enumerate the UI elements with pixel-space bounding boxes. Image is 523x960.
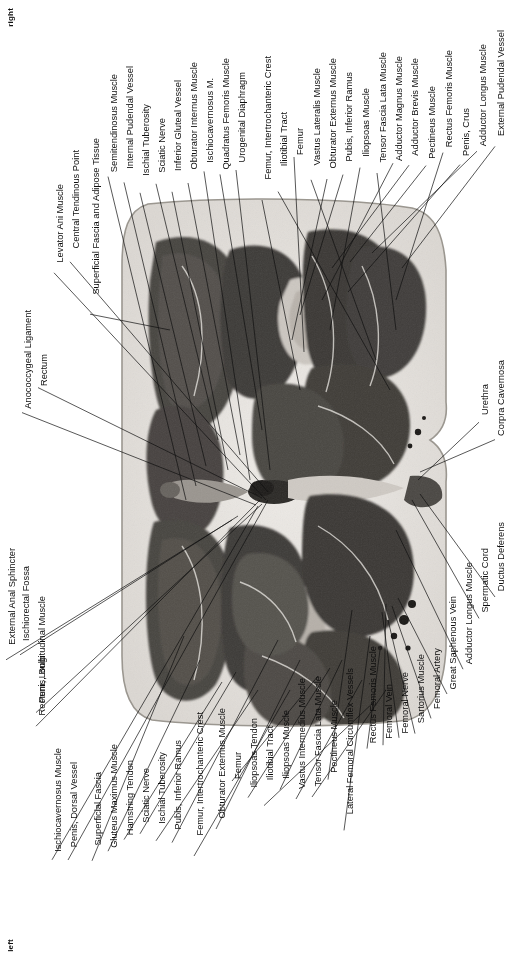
anatomy-label: Internal Pudendal Vessel [126,66,136,169]
label-layer: External Pudendal VesselAdductor Longus … [0,0,523,960]
anatomy-label: Rectum [40,354,50,386]
anatomy-label: Lateral Femoral Circumflex Vessels [346,668,356,814]
anatomy-label: Sartorius Muscle [417,654,427,723]
anatomy-label: Ductus Deferens [497,522,507,591]
anatomy-label: Adductor Longus Muscle [465,562,475,664]
anatomy-label: Corpra Cavernosa [497,360,507,436]
anatomy-label: External Anal Sphincter [8,548,18,645]
anatomy-label: Femur [296,128,306,155]
anatomy-label: Spermatic Cord [481,548,491,613]
anatomy-label: Urethra [481,384,491,415]
anatomy-label: Ischial Tuberosity [142,104,152,176]
anatomy-label: Pectineus Muscle [428,86,438,159]
anatomy-label: Rectum, Longitudinal Muscle [38,596,48,715]
anatomy-label: Tensor Fascia Lata Muscle [379,52,389,163]
anatomy-label: Penis, Crus [462,108,472,156]
anatomy-label: Iliotibial Tract [280,112,290,166]
anatomy-label: Adductor Brevis Muscle [411,58,421,156]
anatomy-label: Great Saphenous Vein [449,596,459,690]
anatomy-label: Adductor Longus Muscle [479,44,489,146]
anatomy-label: Semitendinosus Muscle [110,74,120,172]
anatomy-label: Iliopsoas Muscle [282,710,292,779]
anatomy-label: Femur, Intertrochanteric Crest [196,712,206,835]
anatomy-label: Vastus Lateralis Muscle [313,68,323,166]
anatomy-label: Ischiocavernosus M. [206,78,216,163]
anatomy-label: Penis, Dorsal Vessel [70,762,80,847]
anatomy-label: Central Tendinous Point [72,150,82,249]
anatomy-label: Superficial Fascia and Adipose Tissue [92,138,102,295]
anatomy-label: Obturator Internus Muscle [190,62,200,169]
anatomy-label: Rectus Femoris Muscle [369,646,379,743]
anatomy-label: External Pudendal Vessel [497,30,507,136]
anatomy-label: Femoral Vein [385,684,395,739]
anatomy-label: Rectus Femoris Muscle [445,50,455,147]
anatomy-label: Levator Ani Muscle [56,184,66,263]
anatomy-label: Iliopsoas Muscle [362,88,372,157]
anatomy-label: Pubis, Inferior Ramus [345,72,355,161]
anatomy-label: Femur [234,752,244,779]
anatomy-label: Obturator Externus Muscle [329,58,339,169]
anatomy-label: Urogenital Diaphragm [238,72,248,162]
anatomy-label: Anococcygeal Ligament [24,310,34,409]
anatomy-label: Sciatic Nerve [158,118,168,173]
anatomy-label: Pectineus Muscle [330,700,340,773]
anatomy-label: Gluteus Maximus Muscle [110,744,120,848]
anatomy-label: Pubis, Inferior Ramus [174,740,184,829]
anatomy-label: Iliopsoas Tendon [250,718,260,788]
anatomy-label: Femoral Nerve [401,672,411,733]
anatomy-label: Vastus Intermedius Muscle [298,678,308,789]
anatomy-label: Obturator Externus Muscle [218,708,228,819]
anatomy-label: Superficial Fascia [94,772,104,845]
anatomy-label: Femoral Artery [433,648,443,709]
anatomy-label: Femur, Intertrochanteric Crest [264,56,274,179]
anatomy-label: Ischial Tuberosity [158,752,168,824]
anatomy-label: Inferior Gluteal Vessel [174,80,184,171]
anatomy-label: Ischiorectal Fossa [22,566,32,641]
anatomy-label: Ischiocavernosus Muscle [54,748,64,852]
anatomy-label: Hamstring Tendon [126,760,136,835]
anatomy-label: Sciatic Nerve [142,768,152,823]
anatomy-label: Quadratus Femoris Muscle [222,58,232,170]
anatomy-label: Iliotibial Tract [266,726,276,780]
anatomy-label: Tensor Fascia Lata Muscle [314,676,324,787]
anatomy-label: Adductor Magnus Muscle [395,56,405,161]
